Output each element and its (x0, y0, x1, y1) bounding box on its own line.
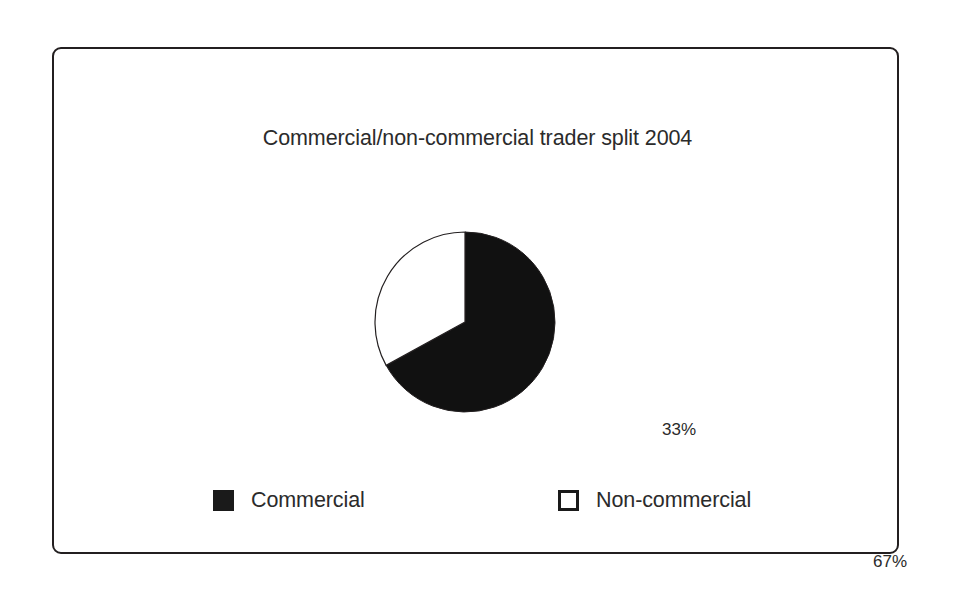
pie-svg (373, 230, 557, 414)
pie-chart: 33% 67% (373, 230, 557, 414)
legend-swatch-noncommercial-icon (558, 490, 579, 511)
chart-legend: Commercial Non-commercial (54, 486, 901, 516)
legend-item-noncommercial[interactable]: Non-commercial (558, 486, 751, 514)
legend-label-commercial: Commercial (251, 488, 365, 513)
chart-frame: Commercial/non-commercial trader split 2… (52, 47, 899, 554)
figure-root: Commercial/non-commercial trader split 2… (0, 0, 954, 593)
pie-value-label-noncommercial: 33% (662, 420, 696, 440)
legend-item-commercial[interactable]: Commercial (213, 486, 365, 514)
legend-label-noncommercial: Non-commercial (596, 488, 751, 513)
legend-swatch-commercial-icon (213, 490, 234, 511)
chart-title: Commercial/non-commercial trader split 2… (54, 126, 901, 151)
pie-value-label-commercial: 67% (873, 552, 907, 572)
